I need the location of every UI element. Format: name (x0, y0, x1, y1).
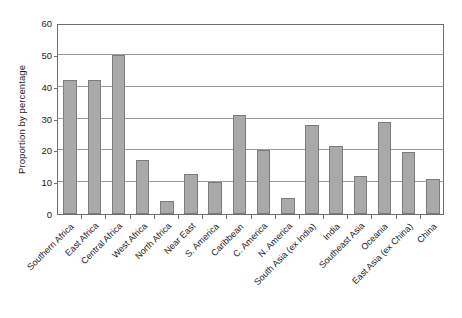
bar (426, 179, 440, 214)
y-tick-label: 50 (26, 51, 52, 61)
x-tick-mark (396, 215, 397, 219)
x-tick-mark (154, 215, 155, 219)
bar (112, 55, 126, 214)
bar (208, 182, 222, 214)
x-tick-mark (130, 215, 131, 219)
x-axis-ticks (57, 215, 444, 220)
x-axis-labels: Southern AfricaEast AfricaCentral Africa… (57, 221, 444, 318)
x-axis-label: China (415, 221, 439, 245)
bar-series (58, 25, 443, 214)
bar (160, 201, 174, 214)
x-tick-mark (178, 215, 179, 219)
y-tick-label: 30 (26, 115, 52, 125)
bar (88, 80, 102, 214)
bar (136, 160, 150, 214)
x-tick-mark (226, 215, 227, 219)
x-tick-mark (371, 215, 372, 219)
bar (305, 125, 319, 214)
bar-chart: Proportion by percentage 0102030405060 S… (0, 0, 462, 318)
x-tick-mark (81, 215, 82, 219)
x-tick-mark (420, 215, 421, 219)
y-tick-label: 20 (26, 146, 52, 156)
y-tick-label: 10 (26, 178, 52, 188)
x-tick-mark (347, 215, 348, 219)
x-tick-mark (251, 215, 252, 219)
bar (402, 152, 416, 214)
bar (329, 146, 343, 214)
plot-area (57, 24, 444, 215)
y-tick-label: 0 (26, 210, 52, 220)
x-tick-mark (275, 215, 276, 219)
bar (184, 174, 198, 214)
bar (281, 198, 295, 214)
y-tick-label: 40 (26, 83, 52, 93)
y-axis-ticks: 0102030405060 (24, 0, 52, 318)
x-tick-mark (323, 215, 324, 219)
bar (63, 80, 77, 214)
x-axis-label: India (321, 221, 342, 242)
x-tick-mark (299, 215, 300, 219)
bar (257, 150, 271, 214)
y-tick-label: 60 (26, 19, 52, 29)
bar (354, 176, 368, 214)
bar (378, 122, 392, 214)
x-tick-mark (202, 215, 203, 219)
bar (233, 115, 247, 214)
x-tick-mark (105, 215, 106, 219)
